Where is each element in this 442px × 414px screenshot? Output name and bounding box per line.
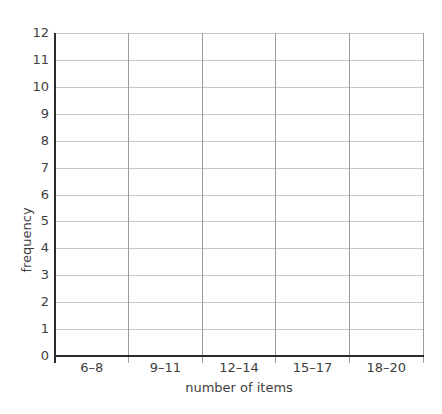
x-tick-label: 18–20 <box>349 360 423 376</box>
frequency-chart: frequency number of items 01234567891011… <box>0 0 442 414</box>
h-gridline <box>55 141 423 142</box>
x-tick-label: 6–8 <box>55 360 129 376</box>
y-tick-label: 10 <box>15 79 49 95</box>
h-gridline <box>55 168 423 169</box>
y-tick-label: 0 <box>15 348 49 364</box>
y-tick-label: 5 <box>15 213 49 229</box>
v-gridline <box>275 33 276 363</box>
y-tick-label: 12 <box>15 25 49 41</box>
y-tick-label: 2 <box>15 294 49 310</box>
y-tick-label: 3 <box>15 267 49 283</box>
x-axis-title: number of items <box>185 380 293 396</box>
y-axis-line <box>54 33 56 363</box>
y-tick-label: 4 <box>15 240 49 256</box>
y-tick-label: 7 <box>15 160 49 176</box>
h-gridline <box>55 275 423 276</box>
x-axis-line <box>54 355 424 357</box>
v-gridline <box>202 33 203 363</box>
y-tick-label: 11 <box>15 52 49 68</box>
h-gridline <box>55 329 423 330</box>
y-tick-label: 1 <box>15 321 49 337</box>
y-tick-label: 6 <box>15 187 49 203</box>
h-gridline <box>55 87 423 88</box>
y-tick-label: 9 <box>15 106 49 122</box>
h-gridline <box>55 302 423 303</box>
h-gridline <box>55 114 423 115</box>
v-gridline <box>423 33 424 363</box>
y-tick-label: 8 <box>15 133 49 149</box>
h-gridline <box>55 221 423 222</box>
v-gridline <box>128 33 129 363</box>
h-gridline <box>55 33 423 34</box>
x-tick-label: 15–17 <box>276 360 350 376</box>
h-gridline <box>55 195 423 196</box>
h-gridline <box>55 248 423 249</box>
h-gridline <box>55 60 423 61</box>
v-gridline <box>349 33 350 363</box>
x-tick-label: 9–11 <box>129 360 203 376</box>
x-tick-label: 12–14 <box>202 360 276 376</box>
